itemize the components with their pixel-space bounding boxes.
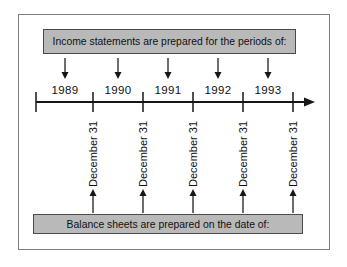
up-arrow-icon — [90, 189, 297, 213]
down-arrow-icon — [62, 58, 272, 79]
balance-sheets-label: Balance sheets are prepared on the date … — [67, 219, 270, 230]
balance-sheets-box: Balance sheets are prepared on the date … — [33, 214, 303, 234]
income-statements-label: Income statements are prepared for the p… — [53, 36, 287, 47]
timeline-axis — [36, 92, 315, 112]
axis-arrowhead-icon — [304, 98, 315, 107]
timeline-figure: Income statements are prepared for the p… — [0, 0, 347, 267]
income-statements-box: Income statements are prepared for the p… — [43, 29, 296, 54]
